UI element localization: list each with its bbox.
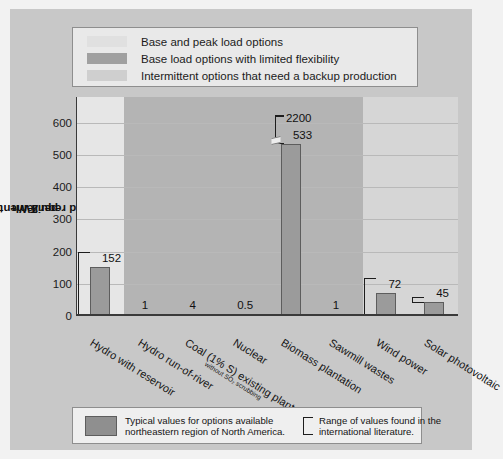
top-legend-box: Base and peak load options Base load opt… <box>72 27 418 87</box>
bar-value-label: 1 <box>333 299 339 311</box>
range-top-tick <box>275 115 284 117</box>
bar-value-label: 533 <box>293 129 312 141</box>
y-axis-line <box>76 97 77 316</box>
x-tick-label-main: Biomass plantation <box>279 337 364 396</box>
y-tick-label: 600 <box>32 117 72 129</box>
figure-panel: Base and peak load options Base load opt… <box>10 9 472 450</box>
range-value-label: 2200 <box>286 112 312 124</box>
bottom-legend-range-bracket-icon <box>303 417 313 435</box>
bottom-legend-box: Typical values for options available nor… <box>72 407 422 444</box>
y-tick-label: 300 <box>32 213 72 225</box>
range-bracket <box>78 252 90 316</box>
bar-value-label: 0.5 <box>237 299 253 311</box>
bar <box>281 144 301 316</box>
range-bracket <box>364 278 376 316</box>
legend-label-base-load: Base load options with limited flexibili… <box>141 53 339 65</box>
plot-area: Land requirements/km2 per TWh 152140.553… <box>24 95 458 335</box>
x-tick-label-main: Nuclear <box>231 337 269 366</box>
y-tick-label: 100 <box>32 278 72 290</box>
x-tick-label-main: Hydro with reservoir <box>88 337 177 398</box>
legend-swatch-dark <box>87 53 127 64</box>
legend-swatch-light <box>87 36 127 47</box>
gridline <box>76 155 458 156</box>
bottom-legend-typical-line1: Typical values for options available <box>125 415 273 426</box>
bottom-legend-range-text: Range of values found in the internation… <box>319 415 441 437</box>
bottom-legend-typical-text: Typical values for options available nor… <box>125 415 285 437</box>
x-tick-label: Nuclear <box>231 337 269 366</box>
legend-label-base-and-peak: Base and peak load options <box>141 36 283 48</box>
x-tick-label-main: Solar photovoltaic <box>422 337 502 393</box>
y-tick-label: 400 <box>32 181 72 193</box>
bottom-legend-range-line2: international literature. <box>319 426 414 437</box>
gridline <box>76 252 458 253</box>
legend-swatch-mid <box>87 70 127 81</box>
x-tick-label-layer: Hydro with reservoirHydro run-of-riverCo… <box>76 337 496 403</box>
bar-value-label: 4 <box>189 299 195 311</box>
gridline <box>76 187 458 188</box>
legend-item-base-and-peak: Base and peak load options <box>87 33 417 50</box>
y-tick-label: 0 <box>32 310 72 322</box>
x-tick-label: Biomass plantation <box>279 337 364 396</box>
range-bracket <box>412 297 424 303</box>
bar-value-label: 1 <box>142 299 148 311</box>
bar-value-label: 152 <box>102 252 121 264</box>
gridline <box>76 219 458 220</box>
x-axis-line <box>76 314 458 316</box>
legend-item-base-load: Base load options with limited flexibili… <box>87 50 417 67</box>
x-tick-label: Solar photovoltaic <box>422 337 502 393</box>
y-tick-label: 500 <box>32 149 72 161</box>
bar <box>376 293 396 316</box>
bottom-legend-typical-line2: northeastern region of North America. <box>125 426 285 437</box>
bar-value-label: 45 <box>436 287 449 299</box>
y-tick-label: 200 <box>32 246 72 258</box>
legend-label-intermittent: Intermittent options that need a backup … <box>141 70 397 82</box>
bar <box>90 267 110 316</box>
gridline <box>76 123 458 124</box>
axis-inner-area: 152140.5533172452200 <box>76 97 458 316</box>
legend-item-intermittent: Intermittent options that need a backup … <box>87 67 417 84</box>
bar-value-label: 72 <box>388 278 401 290</box>
bottom-legend-typical-swatch <box>85 416 117 436</box>
x-tick-label: Hydro with reservoir <box>88 337 177 398</box>
bottom-legend-range-line1: Range of values found in the <box>319 415 441 426</box>
